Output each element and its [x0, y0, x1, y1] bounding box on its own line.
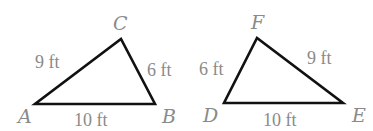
side-label-ab: 10 ft — [74, 110, 108, 130]
vertex-label-b: B — [161, 105, 176, 127]
vertex-label-a: A — [16, 105, 32, 127]
vertex-label-c: C — [113, 12, 128, 34]
triangles-diagram: A B C 9 ft 6 ft 10 ft D E F 6 ft 9 ft 10… — [0, 0, 373, 131]
side-label-de: 10 ft — [263, 110, 297, 130]
vertex-label-f: F — [250, 11, 265, 33]
side-label-ac: 9 ft — [35, 52, 60, 72]
triangle-abc: A B C 9 ft 6 ft 10 ft — [16, 12, 176, 130]
side-label-df: 6 ft — [199, 59, 224, 79]
side-label-cb: 6 ft — [147, 60, 172, 80]
side-label-fe: 9 ft — [307, 48, 332, 68]
vertex-label-d: D — [202, 104, 218, 126]
triangle-def: D E F 6 ft 9 ft 10 ft — [199, 11, 366, 130]
vertex-label-e: E — [351, 104, 366, 126]
